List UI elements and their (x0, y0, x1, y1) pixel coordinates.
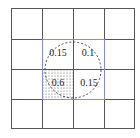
grid-lines (12, 9, 135, 129)
cell-label-r2c1: 0.6 (52, 77, 65, 88)
grid-diagram: 0.15 0.1 0.6 0.15 (0, 0, 140, 138)
cell-label-r1c2: 0.1 (82, 47, 95, 58)
cell-label-r2c2: 0.15 (80, 77, 98, 88)
cell-label-r1c1: 0.15 (49, 47, 67, 58)
